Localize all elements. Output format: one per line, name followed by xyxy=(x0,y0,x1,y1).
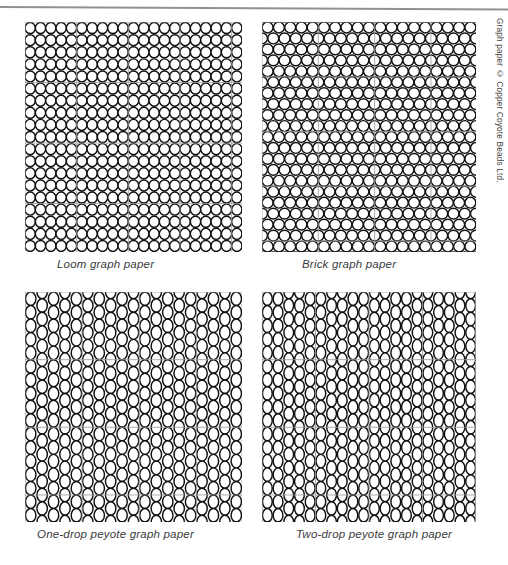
one-drop-peyote-bead-grid xyxy=(25,292,242,522)
brick-bead-grid xyxy=(262,22,476,252)
two-drop-peyote-caption: Two-drop peyote graph paper xyxy=(296,528,452,540)
one-drop-peyote-graph-paper-figure xyxy=(25,292,242,522)
loom-graph-paper-figure xyxy=(25,22,242,252)
copyright-credit: Graph paper © Copper Coyote Beads Ltd. xyxy=(495,18,505,183)
bead-layer xyxy=(262,22,476,252)
loom-caption: Loom graph paper xyxy=(57,258,154,270)
brick-graph-paper-figure xyxy=(262,22,476,252)
top-divider-rule xyxy=(0,6,508,10)
loom-bead-grid xyxy=(25,22,242,252)
bead-layer xyxy=(25,22,242,252)
brick-caption: Brick graph paper xyxy=(302,258,396,270)
two-drop-peyote-bead-grid xyxy=(262,292,476,522)
one-drop-peyote-caption: One-drop peyote graph paper xyxy=(37,528,194,540)
two-drop-peyote-graph-paper-figure xyxy=(262,292,476,522)
bead-layer xyxy=(25,292,242,522)
